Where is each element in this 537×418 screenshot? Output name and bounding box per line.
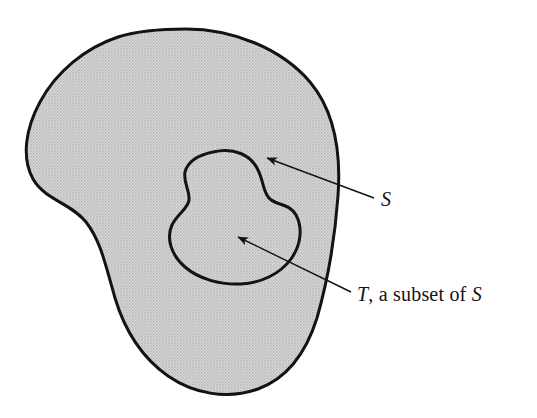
- label-inner-set-text: , a subset of: [368, 283, 471, 305]
- label-inner-set-symbol: T: [357, 283, 368, 305]
- label-inner-set-parent-symbol: S: [472, 283, 482, 305]
- label-outer-set-S: S: [381, 188, 391, 211]
- set-diagram-svg: [0, 0, 537, 418]
- label-outer-set-symbol: S: [381, 188, 391, 210]
- label-inner-set-T: T, a subset of S: [357, 283, 482, 306]
- set-diagram-figure: S T, a subset of S: [0, 0, 537, 418]
